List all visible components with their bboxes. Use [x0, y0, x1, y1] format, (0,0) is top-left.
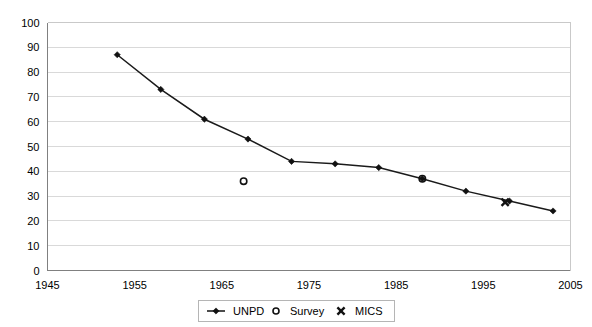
legend-label-survey: Survey	[290, 305, 325, 317]
y-tick-label-70: 70	[27, 91, 39, 103]
y-tick-label-100: 100	[21, 17, 39, 29]
gridlines	[48, 23, 571, 246]
data-point-unpd-1978	[332, 161, 338, 167]
x-axis-tick-labels: 1945195519651975198519952005	[35, 279, 582, 291]
series-unpd	[114, 52, 556, 214]
series-survey	[240, 176, 425, 185]
data-point-survey-1967.5	[240, 178, 246, 184]
x-tick-label-1985: 1985	[384, 279, 408, 291]
line-chart: 0102030405060708090100 19451955196519751…	[0, 0, 592, 327]
x-tick-label-1965: 1965	[210, 279, 234, 291]
y-tick-label-60: 60	[27, 116, 39, 128]
chart-legend: UNPDSurveyMICS	[199, 301, 395, 322]
y-tick-label-20: 20	[27, 215, 39, 227]
y-tick-label-90: 90	[27, 41, 39, 53]
data-point-unpd-1968	[245, 136, 251, 142]
y-tick-label-30: 30	[27, 190, 39, 202]
y-tick-label-50: 50	[27, 141, 39, 153]
legend-label-unpd: UNPD	[233, 305, 264, 317]
y-tick-label-10: 10	[27, 240, 39, 252]
y-axis-tick-labels: 0102030405060708090100	[21, 17, 39, 277]
x-tick-label-1995: 1995	[471, 279, 495, 291]
x-tick-label-1945: 1945	[35, 279, 59, 291]
data-series-layer	[114, 52, 556, 214]
y-tick-label-40: 40	[27, 165, 39, 177]
data-point-unpd-1973	[288, 158, 294, 164]
y-tick-label-0: 0	[33, 265, 39, 277]
data-point-unpd-1983	[376, 164, 382, 170]
data-point-unpd-1993	[463, 188, 469, 194]
y-tick-label-80: 80	[27, 66, 39, 78]
chart-container: 0102030405060708090100 19451955196519751…	[0, 0, 592, 327]
x-tick-label-1955: 1955	[122, 279, 146, 291]
legend-label-mics: MICS	[355, 305, 383, 317]
data-point-unpd-2003	[550, 208, 556, 214]
series-line-unpd	[117, 55, 553, 211]
x-tick-label-2005: 2005	[558, 279, 582, 291]
x-tick-label-1975: 1975	[297, 279, 321, 291]
